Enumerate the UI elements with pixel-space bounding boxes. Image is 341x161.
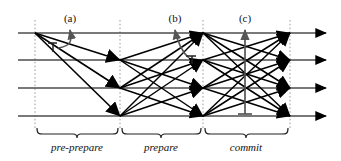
- prepare-messages: [120, 33, 203, 116]
- point-label-b: (b): [169, 12, 182, 25]
- replica-timelines: [18, 33, 326, 116]
- phase-braces: [37, 128, 288, 138]
- msg-preprepare-0-3: [35, 33, 120, 116]
- msg-prepare-3-0: [120, 33, 203, 116]
- phase-label-prepare: prepare: [143, 141, 178, 153]
- phase-label-pre-prepare: pre-prepare: [50, 141, 103, 153]
- point-label-a: (a): [64, 12, 77, 25]
- protocol-flow-canvas: (a) (b) (c) pre-prepare prepare commit: [0, 0, 341, 161]
- point-label-c: (c): [239, 12, 252, 25]
- brace-commit: [205, 128, 288, 138]
- brace-prepare: [122, 128, 201, 138]
- brace-pre-prepare: [37, 128, 118, 138]
- phase-label-commit: commit: [230, 141, 263, 153]
- pbft-protocol-diagram: (a) (b) (c) pre-prepare prepare commit: [0, 0, 341, 161]
- pre-prepare-messages: [35, 33, 120, 116]
- commit-messages: [203, 33, 290, 116]
